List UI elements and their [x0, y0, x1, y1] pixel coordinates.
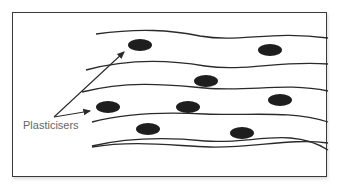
plasticiser-particle: [268, 94, 292, 106]
plasticiser-particles: [96, 39, 292, 139]
plasticiser-particle: [96, 101, 120, 113]
polymer-chain-2: [86, 61, 328, 70]
polymer-chains: [82, 30, 328, 150]
plasticiser-particle: [176, 101, 200, 113]
plasticiser-particle: [194, 75, 218, 87]
polymer-chain-4: [92, 113, 328, 122]
plasticiser-particle: [136, 123, 160, 135]
plasticiser-particle: [128, 39, 152, 51]
polymer-chain-1: [96, 30, 328, 38]
polymer-chain-6b: [92, 142, 328, 147]
plasticiser-particle: [230, 127, 254, 139]
plasticisers-label: Plasticisers: [23, 119, 79, 131]
plasticiser-particle: [258, 44, 282, 56]
polymer-chains-diagram: [0, 0, 345, 187]
